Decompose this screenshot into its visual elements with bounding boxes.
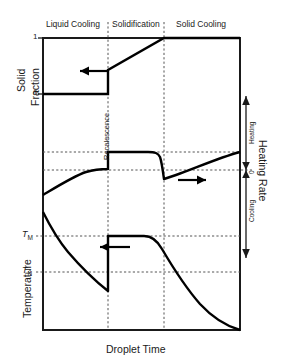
heating-rate-axis-title: Heating Rate xyxy=(258,140,269,201)
cooling-direction-arrowhead xyxy=(242,249,250,258)
solid-fraction-tick-0: 0 xyxy=(33,89,37,97)
recalescence-label: Recalescence xyxy=(103,113,111,160)
zero-heating-rate-label: 0 xyxy=(249,170,256,174)
heating-direction-arrowhead xyxy=(242,96,250,105)
solid-fraction-tick-1: 1 xyxy=(33,33,37,41)
solid-fraction-curve xyxy=(43,38,240,94)
nucleation-temperature-subscript: N xyxy=(28,270,33,277)
plot-frame xyxy=(43,38,240,330)
figure-canvas xyxy=(0,0,282,364)
melting-temperature-tick-label: TM xyxy=(22,230,33,241)
melting-temperature-subscript: M xyxy=(28,234,33,241)
temperature-curve xyxy=(43,212,240,330)
droplet-solidification-figure: Liquid Cooling Solidification Solid Cool… xyxy=(0,0,282,364)
heating-direction-label: Heating xyxy=(249,122,256,144)
phase-label-solid-cooling: Solid Cooling xyxy=(176,20,226,29)
solid-fraction-axis-title-line1: Solid xyxy=(16,69,27,92)
cooling-direction-label: Cooling xyxy=(249,200,256,222)
x-axis-title: Droplet Time xyxy=(106,344,166,355)
phase-label-solidification: Solidification xyxy=(112,20,160,29)
heating-rate-curve xyxy=(43,152,240,195)
temperature-arrow xyxy=(100,242,130,251)
zero-tick-upper-arrowhead xyxy=(242,162,250,170)
phase-label-liquid-cooling: Liquid Cooling xyxy=(46,20,100,29)
nucleation-temperature-tick-label: TN xyxy=(22,266,32,277)
solid-fraction-arrow xyxy=(80,66,107,75)
heating-rate-arrow xyxy=(178,175,206,184)
